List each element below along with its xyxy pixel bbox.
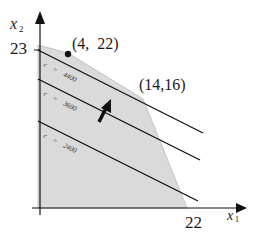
y-axis-arrowhead-icon <box>35 11 45 24</box>
vertex-label-4-22: (4, 22) <box>72 35 119 53</box>
x-intercept-label: 22 <box>185 213 202 232</box>
svg-text:1: 1 <box>235 215 239 224</box>
x-axis-arrowhead-icon <box>236 203 247 213</box>
vertex-dot-4-22 <box>65 51 71 57</box>
y-axis-label: x 2 <box>9 15 24 34</box>
svg-text:2: 2 <box>19 24 24 34</box>
vertex-label-14-16: (14,16) <box>139 76 186 94</box>
feasible-region <box>38 45 187 208</box>
svg-text:x: x <box>226 208 234 223</box>
lp-diagram: 23 22 (4, 22) (14,16) x 2 x 1 c = 4400 c… <box>0 0 253 236</box>
svg-text:x: x <box>9 15 17 32</box>
y-intercept-label: 23 <box>10 39 27 58</box>
